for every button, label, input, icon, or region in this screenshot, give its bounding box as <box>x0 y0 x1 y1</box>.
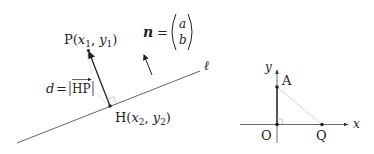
x-axis-label: x <box>353 117 360 131</box>
svg-text:HP: HP <box>72 82 91 96</box>
diagram-canvas: ℓ P(x1, y1) H(x2, y2) d = <box>0 0 374 154</box>
svg-text:d: d <box>46 81 54 96</box>
line-l <box>17 71 200 143</box>
point-h <box>108 104 112 108</box>
svg-text:n: n <box>143 24 153 40</box>
distance-brace-bottom <box>97 93 106 103</box>
point-q-label: Q <box>316 128 327 143</box>
right-diagram: x y A O Q <box>240 60 360 143</box>
point-p <box>87 49 90 52</box>
point-a <box>275 85 279 89</box>
normal-vector-arrow <box>144 55 152 75</box>
svg-text:a: a <box>179 17 186 31</box>
point-a-label: A <box>281 73 292 88</box>
vector-hp-arrow <box>89 52 110 106</box>
distance-brace-top <box>87 52 92 74</box>
svg-text:=: = <box>157 25 168 40</box>
point-h-label: H(x2, y2) <box>115 110 171 127</box>
svg-text:=: = <box>56 81 67 96</box>
svg-text:b: b <box>179 33 187 47</box>
left-diagram: ℓ P(x1, y1) H(x2, y2) d = <box>17 14 210 143</box>
point-p-label: P(x1, y1) <box>64 32 117 49</box>
origin-label: O <box>261 128 272 143</box>
distance-label: d = HP <box>46 80 93 97</box>
line-l-label: ℓ <box>204 58 210 73</box>
point-o <box>275 123 279 127</box>
segment-aq-dotted <box>277 87 322 125</box>
y-axis-label: y <box>264 60 272 74</box>
point-q <box>320 123 324 127</box>
diagram-svg: ℓ P(x1, y1) H(x2, y2) d = <box>0 0 374 154</box>
normal-vector-label: n = a b <box>143 14 192 50</box>
